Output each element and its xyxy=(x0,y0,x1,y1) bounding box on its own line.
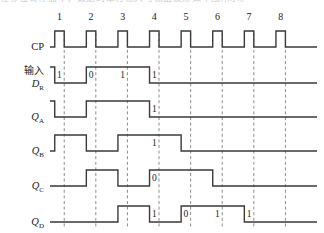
pulse-number-7: 7 xyxy=(247,11,252,22)
bit-value-QC-slot4: 0 xyxy=(152,173,157,183)
signal-label-QB: QB xyxy=(32,145,45,159)
waveform-QA xyxy=(50,101,317,117)
cutoff-caption-text: 在移位寄存器中，数据的串行输入与输出波形如下图所示。 xyxy=(0,0,324,9)
waveform-CP xyxy=(50,31,317,47)
cutoff-caption-label: 在移位寄存器中，数据的串行输入与输出波形如下图所示。 xyxy=(0,0,250,3)
pulse-number-4: 4 xyxy=(152,11,157,22)
waveform-QC xyxy=(50,170,317,186)
clock-marker-lines xyxy=(64,33,285,229)
pulse-number-2: 2 xyxy=(89,11,94,22)
bit-value-QB-slot4: 1 xyxy=(152,138,157,148)
bit-value-DR-slot1: 1 xyxy=(57,70,62,80)
timing-diagram-figure: 在移位寄存器中，数据的串行输入与输出波形如下图所示。 12345678 CP输入… xyxy=(0,0,324,233)
pulse-number-8: 8 xyxy=(278,11,283,22)
pulse-number-3: 3 xyxy=(120,11,125,22)
waveform-QB xyxy=(50,135,317,151)
bit-value-QA-slot4: 1 xyxy=(152,104,157,114)
bit-value-DR-slot3: 1 xyxy=(120,70,125,80)
bit-value-DR-slot2: 0 xyxy=(89,70,94,80)
pulse-number-1: 1 xyxy=(57,11,62,22)
bit-value-QD-slot6: 1 xyxy=(215,209,220,219)
signal-label-QA: QA xyxy=(31,111,44,125)
signal-label-QC: QC xyxy=(32,180,45,194)
pulse-number-row: 12345678 xyxy=(57,11,283,22)
signal-label-DR: DR xyxy=(31,78,45,92)
bit-value-QD-slot7: 1 xyxy=(247,209,252,219)
signal-label-QD: QD xyxy=(31,216,44,230)
bit-value-QD-slot4: 1 xyxy=(152,209,157,219)
pulse-number-5: 5 xyxy=(183,11,188,22)
pulse-number-6: 6 xyxy=(215,11,220,22)
signal-label-CP: CP xyxy=(31,41,44,52)
bit-value-DR-slot4: 1 xyxy=(152,70,157,80)
signal-label-DR-cn: 输入 xyxy=(24,64,44,76)
signal-rows xyxy=(50,31,317,222)
waveform-canvas: 12345678 CP输入DRQAQBQCQD 10111101011 xyxy=(0,0,324,233)
bit-value-QD-slot5: 0 xyxy=(184,209,189,219)
signal-label-column: CP输入DRQAQBQCQD xyxy=(24,41,44,230)
